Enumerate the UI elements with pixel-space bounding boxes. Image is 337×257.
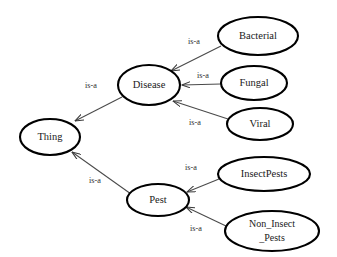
edge-non-insect-pests-pest: is-a xyxy=(186,207,226,233)
edge-disease-thing: is-a xyxy=(75,81,122,121)
edge-label-non-insect-pests-pest: is-a xyxy=(190,224,202,233)
edge-line-fungal-disease xyxy=(182,84,221,85)
node-shape-non-insect-pests[interactable] xyxy=(225,211,319,251)
node-label-non-insect-pests-line2: _Pests xyxy=(258,232,285,243)
edge-label-bacterial-disease: is-a xyxy=(188,37,200,46)
edge-label-pest-thing: is-a xyxy=(89,176,101,185)
node-insectpests[interactable]: InsectPests xyxy=(218,157,310,191)
node-disease[interactable]: Disease xyxy=(118,65,180,105)
edge-label-disease-thing: is-a xyxy=(85,81,97,90)
edge-label-insectpests-pest: is-a xyxy=(185,163,197,172)
node-viral[interactable]: Viral xyxy=(227,108,293,140)
node-label-non-insect-pests-line1: Non_Insect xyxy=(249,218,295,229)
node-non-insect-pests[interactable]: Non_Insect _Pests xyxy=(225,211,319,251)
edge-line-pest-thing xyxy=(72,152,131,194)
edge-insectpests-pest: is-a xyxy=(185,163,219,192)
edge-line-viral-disease xyxy=(173,101,228,119)
node-label-pest: Pest xyxy=(149,194,167,205)
edge-line-insectpests-pest xyxy=(187,179,219,192)
nodes-layer: Thing Disease Pest Bacterial Fungal Vira xyxy=(20,17,319,251)
edge-fungal-disease: is-a xyxy=(182,71,221,85)
node-label-insectpests: InsectPests xyxy=(241,168,288,179)
node-bacterial[interactable]: Bacterial xyxy=(218,17,298,55)
node-label-fungal: Fungal xyxy=(239,77,268,88)
node-label-bacterial: Bacterial xyxy=(239,30,277,41)
edge-label-fungal-disease: is-a xyxy=(197,71,209,80)
node-thing[interactable]: Thing xyxy=(20,119,80,155)
edge-bacterial-disease: is-a xyxy=(171,37,221,71)
ontology-diagram: is-a is-a is-a is-a is-a is-a xyxy=(0,0,337,257)
edge-pest-thing: is-a xyxy=(72,152,131,194)
node-label-thing: Thing xyxy=(37,131,63,142)
edge-label-viral-disease: is-a xyxy=(189,118,201,127)
node-fungal[interactable]: Fungal xyxy=(221,66,287,100)
edge-line-bacterial-disease xyxy=(171,46,221,71)
edge-line-disease-thing xyxy=(75,97,122,121)
node-label-disease: Disease xyxy=(133,79,166,90)
taxonomy-graph-canvas: is-a is-a is-a is-a is-a is-a xyxy=(0,0,337,257)
node-label-viral: Viral xyxy=(250,118,271,129)
edge-viral-disease: is-a xyxy=(173,101,228,127)
node-pest[interactable]: Pest xyxy=(127,184,189,216)
